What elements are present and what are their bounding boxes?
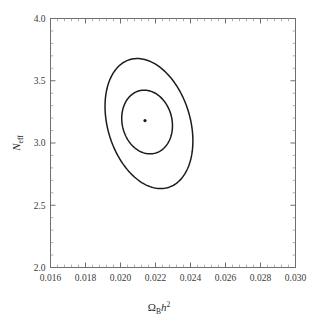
plot-svg: 0.0160.0180.0200.0220.0240.0260.0280.030… bbox=[0, 0, 318, 323]
x-tick-label: 0.020 bbox=[110, 273, 132, 283]
x-tick-label: 0.028 bbox=[250, 273, 272, 283]
x-tick-label: 0.018 bbox=[75, 273, 97, 283]
y-tick-label: 3.5 bbox=[34, 76, 46, 86]
y-tick-label: 2.5 bbox=[34, 201, 46, 211]
confidence-contour-plot: 0.0160.0180.0200.0220.0240.0260.0280.030… bbox=[0, 0, 318, 323]
y-tick-label: 2.0 bbox=[34, 263, 46, 273]
x-tick-label: 0.030 bbox=[285, 273, 307, 283]
omega-symbol: Ω bbox=[148, 301, 156, 313]
y-tick-label: 3.0 bbox=[34, 138, 46, 148]
x-tick-label: 0.026 bbox=[215, 273, 237, 283]
best-fit-point bbox=[143, 119, 146, 122]
h-exponent: 2 bbox=[166, 300, 170, 309]
x-tick-label: 0.016 bbox=[40, 273, 62, 283]
x-tick-label: 0.024 bbox=[180, 273, 202, 283]
y-tick-label: 4.0 bbox=[34, 14, 46, 24]
x-tick-label: 0.022 bbox=[145, 273, 167, 283]
n-subscript: eff bbox=[16, 135, 25, 144]
